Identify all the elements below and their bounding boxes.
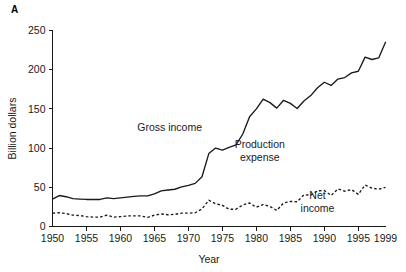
x-axis-title: Year — [198, 253, 220, 265]
x-tick-label: 1955 — [75, 232, 99, 244]
data-series-group — [53, 42, 386, 217]
x-tick-label: 1999 — [374, 232, 398, 244]
y-axis-ticks — [49, 31, 53, 227]
line-chart-plot: 050100150200250 195019551960196519701975… — [0, 0, 406, 272]
annotation-net-income: income — [301, 202, 335, 214]
series-annotations: Gross incomeProductionexpenseNetincome — [137, 121, 334, 214]
x-tick-label: 1970 — [177, 232, 201, 244]
series-line-net-income — [53, 185, 386, 218]
y-axis-tick-labels: 050100150200250 — [28, 24, 46, 232]
y-axis: 050100150200250 — [28, 24, 53, 232]
x-tick-label: 1995 — [347, 232, 371, 244]
annotation-gross-income: Gross income — [137, 121, 202, 133]
series-line-gross-income — [53, 42, 386, 199]
y-tick-label: 50 — [34, 181, 46, 193]
y-tick-label: 250 — [28, 24, 46, 36]
x-tick-label: 1950 — [41, 232, 65, 244]
annotation-production-expense: Production — [235, 138, 285, 150]
x-tick-label: 1960 — [109, 232, 133, 244]
annotation-production-expense: expense — [240, 151, 280, 163]
x-tick-label: 1965 — [143, 232, 167, 244]
y-axis-title: Billion dollars — [6, 98, 18, 160]
annotation-net-income: Net — [309, 189, 325, 201]
chart-figure: A 050100150200250 1950195519601965197019… — [0, 0, 406, 272]
y-tick-label: 150 — [28, 103, 46, 115]
x-axis-ticks — [86, 227, 358, 231]
y-tick-label: 0 — [40, 220, 46, 232]
x-axis: 1950195519601965197019751980198519901995… — [41, 227, 398, 244]
x-tick-label: 1990 — [313, 232, 337, 244]
x-tick-label: 1980 — [245, 232, 269, 244]
x-axis-tick-labels: 1950195519601965197019751980198519901995… — [41, 232, 398, 244]
y-tick-label: 200 — [28, 63, 46, 75]
x-tick-label: 1985 — [279, 232, 303, 244]
y-tick-label: 100 — [28, 142, 46, 154]
x-tick-label: 1975 — [211, 232, 235, 244]
